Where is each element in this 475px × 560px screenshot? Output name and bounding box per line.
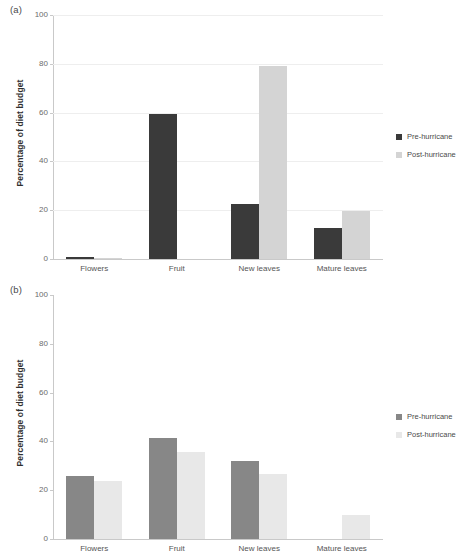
x-axis-tick-label: Fruit bbox=[136, 264, 219, 273]
y-axis-tick-label: 100 bbox=[35, 11, 48, 19]
x-axis-tick-label: New leaves bbox=[218, 264, 301, 273]
legend-square-icon bbox=[396, 152, 402, 158]
bar[interactable] bbox=[342, 515, 370, 539]
bar-group-bars bbox=[136, 15, 219, 259]
x-axis-line-a bbox=[53, 259, 383, 260]
bar-group-bars bbox=[301, 295, 384, 539]
bar[interactable] bbox=[94, 258, 122, 259]
y-axis-tick-label: 60 bbox=[39, 389, 48, 397]
bar-group-bars bbox=[136, 295, 219, 539]
bar-group: Fruit bbox=[136, 15, 219, 259]
y-axis-tick-label: 0 bbox=[44, 255, 48, 263]
legend-square-icon bbox=[396, 414, 402, 420]
bar[interactable] bbox=[231, 204, 259, 259]
bar[interactable] bbox=[314, 228, 342, 259]
bar-group-bars bbox=[53, 295, 136, 539]
legend-item[interactable]: Post-hurricane bbox=[396, 150, 456, 159]
y-axis-tickmark bbox=[50, 539, 53, 540]
bar[interactable] bbox=[342, 211, 370, 259]
chart-panel-a: (a) Percentage of diet budget 0204060801… bbox=[0, 0, 475, 280]
x-axis-tick-label: Fruit bbox=[136, 544, 219, 553]
x-axis-tick-label: Mature leaves bbox=[301, 544, 384, 553]
y-axis-tick-label: 60 bbox=[39, 109, 48, 117]
bar[interactable] bbox=[259, 66, 287, 259]
bar[interactable] bbox=[66, 257, 94, 259]
bar-group-bars bbox=[218, 15, 301, 259]
bar-group: Flowers bbox=[53, 15, 136, 259]
legend-item-label: Pre-hurricane bbox=[407, 412, 452, 421]
y-axis-tick-label: 100 bbox=[35, 291, 48, 299]
plot-area-a: 020406080100FlowersFruitNew leavesMature… bbox=[53, 15, 383, 260]
bar[interactable] bbox=[231, 461, 259, 539]
bar[interactable] bbox=[177, 452, 205, 539]
bar-group-bars bbox=[53, 15, 136, 259]
bar-group: New leaves bbox=[218, 15, 301, 259]
y-axis-tick-label: 20 bbox=[39, 206, 48, 214]
legend-item-label: Pre-hurricane bbox=[407, 132, 452, 141]
x-axis-tick-label: Mature leaves bbox=[301, 264, 384, 273]
bar-group: New leaves bbox=[218, 295, 301, 539]
y-axis-tick-label: 80 bbox=[39, 340, 48, 348]
bar[interactable] bbox=[149, 114, 177, 259]
bar-group: Flowers bbox=[53, 295, 136, 539]
legend-item[interactable]: Pre-hurricane bbox=[396, 412, 456, 421]
panel-letter-a: (a) bbox=[10, 4, 22, 15]
bar-group: Fruit bbox=[136, 295, 219, 539]
y-axis-tick-label: 40 bbox=[39, 437, 48, 445]
legend-item-label: Post-hurricane bbox=[407, 430, 456, 439]
legend-b: Pre-hurricanePost-hurricane bbox=[396, 412, 456, 448]
y-axis-tick-label: 0 bbox=[44, 535, 48, 543]
bar[interactable] bbox=[259, 474, 287, 539]
y-axis-label-b: Percentage of diet budget bbox=[15, 353, 25, 473]
legend-square-icon bbox=[396, 432, 402, 438]
y-axis-tickmark bbox=[50, 259, 53, 260]
x-axis-tick-label: Flowers bbox=[53, 264, 136, 273]
y-axis-tick-label: 20 bbox=[39, 486, 48, 494]
panel-letter-b: (b) bbox=[10, 284, 22, 295]
legend-a: Pre-hurricanePost-hurricane bbox=[396, 132, 456, 168]
x-axis-tick-label: Flowers bbox=[53, 544, 136, 553]
bar[interactable] bbox=[94, 481, 122, 539]
bar-group-bars bbox=[218, 295, 301, 539]
bar-group: Mature leaves bbox=[301, 15, 384, 259]
y-axis-tick-label: 80 bbox=[39, 60, 48, 68]
bar[interactable] bbox=[66, 476, 94, 539]
bar[interactable] bbox=[149, 438, 177, 539]
y-axis-tick-label: 40 bbox=[39, 157, 48, 165]
chart-panel-b: (b) Percentage of diet budget 0204060801… bbox=[0, 280, 475, 560]
bar-group-bars bbox=[301, 15, 384, 259]
figure: (a) Percentage of diet budget 0204060801… bbox=[0, 0, 475, 560]
legend-item[interactable]: Pre-hurricane bbox=[396, 132, 456, 141]
legend-item[interactable]: Post-hurricane bbox=[396, 430, 456, 439]
x-axis-line-b bbox=[53, 539, 383, 540]
legend-item-label: Post-hurricane bbox=[407, 150, 456, 159]
plot-area-b: 020406080100FlowersFruitNew leavesMature… bbox=[53, 295, 383, 540]
bar-group: Mature leaves bbox=[301, 295, 384, 539]
legend-square-icon bbox=[396, 134, 402, 140]
x-axis-tick-label: New leaves bbox=[218, 544, 301, 553]
y-axis-label-a: Percentage of diet budget bbox=[15, 73, 25, 193]
